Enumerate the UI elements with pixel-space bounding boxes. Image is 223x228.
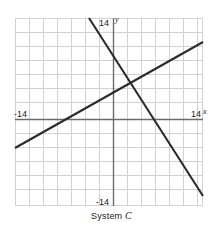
figure-caption: System C (0, 210, 223, 221)
x-axis-variable-label: x (202, 107, 207, 116)
x-axis-min-label: -14 (14, 109, 27, 119)
coordinate-plane: 14 y -14 -14 14 x (0, 0, 223, 228)
caption-system-name: C (125, 210, 132, 221)
y-axis-max-label: 14 (99, 18, 109, 28)
graph-figure: 14 y -14 -14 14 x System C (0, 0, 223, 228)
y-axis-variable-label: y (114, 15, 119, 24)
x-axis-max-label: 14 (191, 109, 201, 119)
y-axis-min-label: -14 (96, 197, 109, 207)
caption-prefix: System (91, 211, 122, 221)
